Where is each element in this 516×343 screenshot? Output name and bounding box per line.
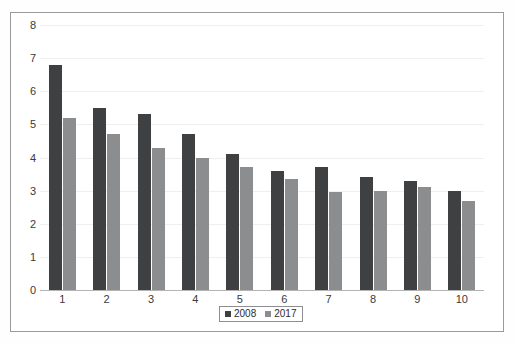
x-axis-line: [40, 290, 484, 291]
gridline: [40, 58, 484, 59]
bar-2017-3: [152, 148, 165, 290]
y-axis: 012345678: [8, 0, 36, 343]
chart-legend: 20082017: [219, 306, 303, 322]
bar-2008-3: [138, 114, 151, 290]
x-tick-label: 5: [225, 293, 255, 306]
y-tick-label: 3: [12, 186, 36, 197]
bar-2008-4: [182, 134, 195, 290]
bar-2008-1: [49, 65, 62, 290]
gridline: [40, 25, 484, 26]
bar-2008-8: [360, 177, 373, 290]
gridline: [40, 91, 484, 92]
x-tick-label: 2: [92, 293, 122, 306]
x-tick-label: 8: [358, 293, 388, 306]
x-tick-label: 7: [314, 293, 344, 306]
x-tick-label: 1: [47, 293, 77, 306]
y-tick-label: 5: [12, 119, 36, 130]
bar-2017-6: [285, 179, 298, 290]
bar-2017-1: [63, 118, 76, 290]
y-tick-label: 7: [12, 53, 36, 64]
bar-2008-9: [404, 181, 417, 290]
bar-2017-5: [240, 167, 253, 290]
legend-swatch-icon: [265, 311, 271, 317]
y-tick-label: 1: [12, 252, 36, 263]
bar-2017-7: [329, 192, 342, 290]
bar-2008-5: [226, 154, 239, 290]
y-tick-label: 0: [12, 285, 36, 296]
bar-2017-10: [462, 201, 475, 290]
bar-2008-7: [315, 167, 328, 290]
bar-2017-2: [107, 134, 120, 290]
bar-2008-10: [448, 191, 461, 290]
legend-swatch-icon: [225, 311, 231, 317]
legend-entry-2008[interactable]: 2008: [225, 309, 256, 319]
x-tick-label: 10: [447, 293, 477, 306]
bar-2008-6: [271, 171, 284, 290]
legend-label: 2017: [274, 309, 296, 319]
x-tick-label: 3: [136, 293, 166, 306]
x-tick-label: 6: [269, 293, 299, 306]
bar-2017-9: [418, 187, 431, 290]
legend-label: 2008: [234, 309, 256, 319]
chart-figure: 012345678 20082017 12345678910: [0, 0, 516, 343]
y-tick-label: 2: [12, 219, 36, 230]
plot-area: [40, 25, 484, 290]
legend-entry-2017[interactable]: 2017: [265, 309, 296, 319]
x-tick-label: 9: [402, 293, 432, 306]
x-tick-label: 4: [180, 293, 210, 306]
y-tick-label: 4: [12, 153, 36, 164]
bar-2008-2: [93, 108, 106, 290]
gridline: [40, 124, 484, 125]
y-tick-label: 6: [12, 86, 36, 97]
bar-2017-4: [196, 158, 209, 291]
y-tick-label: 8: [12, 20, 36, 31]
bar-2017-8: [374, 191, 387, 290]
